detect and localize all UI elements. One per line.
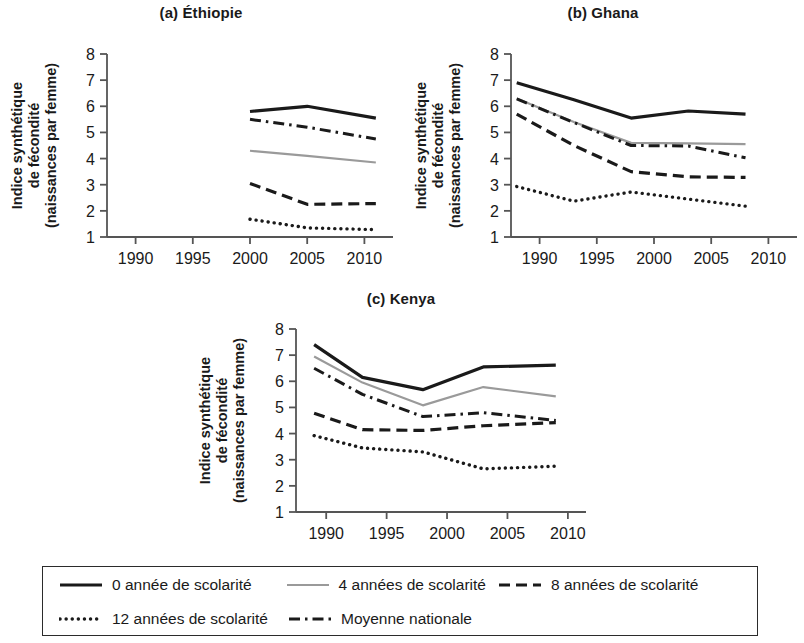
y-axis-tick-label: 1 <box>275 504 284 521</box>
legend-swatch-solid-gray <box>286 578 330 592</box>
chart-svg-ethiopie: Indice synthétiquede fécondité(naissance… <box>0 0 402 282</box>
y-axis-tick-label: 3 <box>86 177 95 194</box>
y-axis-tick-label: 2 <box>275 478 284 495</box>
y-axis-label-line: de fécondité <box>26 103 42 188</box>
legend-label: 0 année de scolarité <box>112 576 252 594</box>
x-axis-tick-label: 1995 <box>579 250 615 267</box>
legend-row: 12 années de scolarité Moyenne nationale <box>43 602 757 636</box>
y-axis-tick-label: 5 <box>86 124 95 141</box>
y-axis-tick-label: 7 <box>86 72 95 89</box>
legend-label: 4 années de scolarité <box>339 576 486 594</box>
data-series-line <box>314 356 556 405</box>
x-axis-tick-label: 1990 <box>118 250 154 267</box>
data-series-line <box>250 183 376 204</box>
x-axis-tick-label: 2005 <box>289 250 325 267</box>
legend-item-8-annees: 8 années de scolarité <box>486 568 698 602</box>
chart-legend: 0 année de scolarité 4 années de scolari… <box>42 566 758 636</box>
y-axis-tick-label: 7 <box>490 72 499 89</box>
y-axis-label-line: Indice synthétique <box>413 82 429 209</box>
y-axis-tick-label: 8 <box>490 46 499 63</box>
x-axis-tick-label: 1995 <box>175 250 211 267</box>
y-axis-tick-label: 4 <box>86 151 95 168</box>
y-axis-label-line: (naissances par femme) <box>43 63 59 228</box>
data-series-line <box>314 436 556 469</box>
data-series-line <box>517 187 746 207</box>
chart-svg-ghana: Indice synthétiquede fécondité(naissance… <box>402 0 804 282</box>
y-axis-tick-label: 5 <box>275 399 284 416</box>
x-axis-tick-label: 2010 <box>751 250 787 267</box>
chart-svg-kenya: Indice synthétiquede fécondité(naissance… <box>186 284 616 556</box>
x-axis-tick-label: 2005 <box>490 525 526 542</box>
y-axis-tick-label: 6 <box>490 98 499 115</box>
legend-label: 12 années de scolarité <box>112 610 268 628</box>
x-axis-tick-label: 2000 <box>636 250 672 267</box>
x-axis-tick-label: 1990 <box>308 525 344 542</box>
y-axis-tick-label: 4 <box>490 151 499 168</box>
y-axis-label-line: de fécondité <box>430 103 446 188</box>
y-axis-tick-label: 1 <box>490 229 499 246</box>
x-axis-tick-label: 2010 <box>550 525 586 542</box>
y-axis-tick-label: 1 <box>86 229 95 246</box>
data-series-line <box>250 106 376 118</box>
x-axis-tick-label: 1990 <box>522 250 558 267</box>
x-axis-tick-label: 2005 <box>693 250 729 267</box>
data-series-line <box>250 219 376 229</box>
legend-item-moyenne-nationale: Moyenne nationale <box>268 602 472 636</box>
x-axis-tick-label: 2000 <box>232 250 268 267</box>
x-axis-tick-label: 1995 <box>369 525 405 542</box>
data-series-line <box>250 151 376 163</box>
y-axis-tick-label: 4 <box>275 426 284 443</box>
legend-swatch-dotted <box>59 612 103 626</box>
chart-panel-ghana: (b) Ghana Indice synthétiquede fécondité… <box>402 0 804 282</box>
x-axis-tick-label: 2000 <box>429 525 465 542</box>
legend-swatch-dashed <box>498 578 542 592</box>
y-axis-tick-label: 2 <box>490 203 499 220</box>
y-axis-tick-label: 6 <box>275 373 284 390</box>
y-axis-tick-label: 8 <box>275 321 284 338</box>
legend-item-4-annees: 4 années de scolarité <box>252 568 486 602</box>
legend-row: 0 année de scolarité 4 années de scolari… <box>43 568 757 602</box>
x-axis-tick-label: 2010 <box>347 250 383 267</box>
legend-swatch-solid-black <box>59 578 103 592</box>
y-axis-tick-label: 7 <box>275 347 284 364</box>
data-series-line <box>517 98 746 144</box>
y-axis-tick-label: 2 <box>86 203 95 220</box>
chart-panel-kenya: (c) Kenya Indice synthétiquede fécondité… <box>186 284 616 556</box>
y-axis-label-line: (naissances par femme) <box>447 63 463 228</box>
y-axis-label-line: (naissances par femme) <box>231 338 247 503</box>
y-axis-tick-label: 6 <box>86 98 95 115</box>
legend-label: 8 années de scolarité <box>551 576 698 594</box>
legend-item-12-annees: 12 années de scolarité <box>43 602 268 636</box>
data-series-line <box>250 119 376 139</box>
legend-label: Moyenne nationale <box>341 610 472 628</box>
y-axis-tick-label: 5 <box>490 124 499 141</box>
y-axis-tick-label: 3 <box>490 177 499 194</box>
y-axis-label-line: Indice synthétique <box>9 82 25 209</box>
data-series-line <box>517 99 746 158</box>
legend-item-0-annee: 0 année de scolarité <box>43 568 252 602</box>
y-axis-tick-label: 3 <box>275 452 284 469</box>
y-axis-tick-label: 8 <box>86 46 95 63</box>
chart-panel-ethiopie: (a) Éthiopie Indice synthétiquede fécond… <box>0 0 402 282</box>
y-axis-label-line: Indice synthétique <box>197 357 213 484</box>
data-series-line <box>314 345 556 390</box>
y-axis-label-line: de fécondité <box>214 378 230 463</box>
legend-swatch-dashdot <box>288 612 332 626</box>
